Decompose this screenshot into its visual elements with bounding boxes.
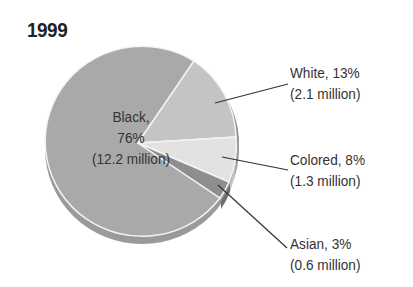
label-asian-name: Asian, 3%	[290, 233, 360, 254]
label-black: Black, 76% (12.2 million)	[79, 106, 183, 169]
label-white: White, 13% (2.1 million)	[290, 62, 360, 104]
label-black-percent: 76%	[79, 127, 183, 148]
label-white-count: (2.1 million)	[290, 83, 360, 104]
label-asian: Asian, 3% (0.6 million)	[290, 233, 360, 275]
label-black-name: Black,	[79, 106, 183, 127]
label-black-count: (12.2 million)	[79, 148, 183, 169]
label-asian-count: (0.6 million)	[290, 254, 360, 275]
label-colored-name: Colored, 8%	[290, 149, 365, 170]
leader-asian	[218, 185, 287, 248]
label-colored: Colored, 8% (1.3 million)	[290, 149, 365, 191]
label-white-name: White, 13%	[290, 62, 360, 83]
label-colored-count: (1.3 million)	[290, 170, 365, 191]
leader-white	[215, 84, 288, 103]
